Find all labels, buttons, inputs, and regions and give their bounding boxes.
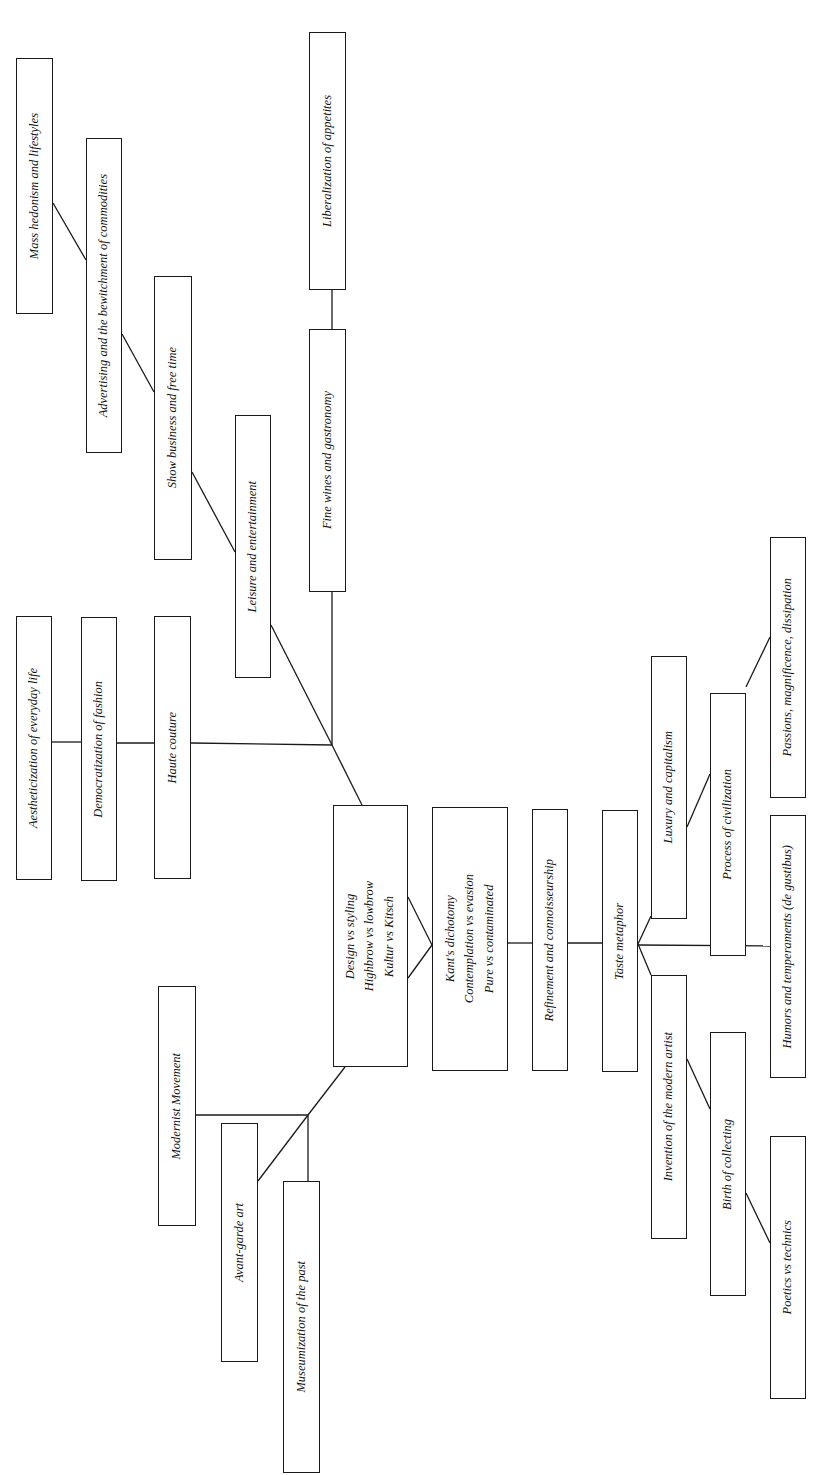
node-passions: Passions, magnificence, dissipation bbox=[770, 537, 806, 798]
node-label: Luxury and capitalism bbox=[659, 731, 678, 844]
edge-hub-lower-to-avant-garde bbox=[258, 1115, 308, 1181]
node-label: Leisure and entertainment bbox=[243, 481, 262, 612]
node-humors: Humors and temperaments (de gustibus) bbox=[770, 815, 806, 1078]
node-haute-couture: Haute couture bbox=[154, 616, 191, 879]
edge-invention-artist-to-birth-collecting bbox=[687, 1059, 710, 1109]
node-kant: Kant's dichotomy Contemplation vs evasio… bbox=[432, 807, 508, 1071]
node-label: Democratization of fashion bbox=[89, 681, 108, 818]
node-birth-collecting: Birth of collecting bbox=[710, 1032, 746, 1296]
node-poetics: Poetics vs technics bbox=[770, 1136, 806, 1399]
node-label: Poetics vs technics bbox=[778, 1220, 797, 1314]
node-label: Avant-garde art bbox=[230, 1203, 249, 1282]
concept-tree-diagram: Mass hedonism and lifestyles Advertising… bbox=[0, 0, 828, 1475]
node-label: Modernist Movement bbox=[167, 1053, 186, 1160]
node-fine-wines: Fine wines and gastronomy bbox=[309, 329, 346, 592]
node-avant-garde: Avant-garde art bbox=[221, 1123, 258, 1362]
edge-advertising-to-show-business bbox=[122, 334, 154, 392]
edge-haute-couture-to-hub-upper bbox=[191, 743, 332, 745]
edge-taste-metaphor-to-luxury bbox=[638, 916, 651, 944]
node-label: Design vs styling Highbrow vs lowbrow Ku… bbox=[341, 881, 399, 991]
node-process-civilization: Process of civilization bbox=[710, 693, 746, 956]
node-advertising: Advertising and the bewitchment of commo… bbox=[86, 138, 122, 453]
edge-birth-collecting-to-poetics bbox=[746, 1193, 770, 1243]
edge-taste-metaphor-to-invention-artist bbox=[638, 944, 651, 975]
node-taste-metaphor: Taste metaphor bbox=[602, 810, 638, 1072]
node-label: Birth of collecting bbox=[718, 1119, 737, 1210]
node-label: Kant's dichotomy Contemplation vs evasio… bbox=[441, 874, 499, 1003]
node-invention-artist: Invention of the modern artist bbox=[651, 975, 687, 1239]
node-label: Aestheticization of everyday life bbox=[24, 668, 43, 828]
edge-luxury-to-process-civilization bbox=[687, 774, 710, 827]
node-luxury: Luxury and capitalism bbox=[651, 656, 687, 919]
node-aestheticization: Aestheticization of everyday life bbox=[16, 616, 52, 880]
node-label: Liberalization of appetites bbox=[318, 95, 337, 227]
node-label: Invention of the modern artist bbox=[659, 1032, 678, 1181]
node-mass-hedonism: Mass hedonism and lifestyles bbox=[16, 58, 53, 314]
node-democratization: Democratization of fashion bbox=[81, 617, 117, 881]
node-refinement: Refinement and connoisseurship bbox=[532, 809, 568, 1071]
node-label: Haute couture bbox=[163, 712, 182, 783]
node-show-business: Show business and free time bbox=[154, 276, 192, 560]
edge-design-to-kant bbox=[408, 945, 432, 978]
node-leisure: Leisure and entertainment bbox=[235, 415, 271, 678]
node-label: Humors and temperaments (de gustibus) bbox=[778, 845, 797, 1048]
node-label: Taste metaphor bbox=[610, 903, 629, 980]
connector-lines bbox=[0, 0, 828, 1475]
edge-taste-metaphor-to-humors bbox=[638, 945, 770, 946]
node-label: Advertising and the bewitchment of commo… bbox=[94, 174, 113, 417]
edge-design-to-hub-lower bbox=[308, 1067, 345, 1115]
node-liberalization: Liberalization of appetites bbox=[309, 32, 346, 290]
edge-process-civilization-to-passions bbox=[746, 637, 770, 687]
edge-mass-hedonism-to-advertising bbox=[53, 203, 86, 260]
node-label: Museumization of the past bbox=[292, 1261, 311, 1393]
edge-show-business-to-leisure bbox=[192, 472, 235, 552]
node-label: Fine wines and gastronomy bbox=[318, 391, 337, 529]
node-label: Show business and free time bbox=[163, 347, 182, 488]
node-label: Refinement and connoisseurship bbox=[540, 859, 559, 1021]
node-label: Mass hedonism and lifestyles bbox=[25, 113, 44, 259]
edge-design-to-kant bbox=[408, 897, 432, 945]
node-design: Design vs styling Highbrow vs lowbrow Ku… bbox=[333, 805, 408, 1067]
node-label: Process of civilization bbox=[718, 769, 737, 880]
edge-hub-upper-to-design bbox=[332, 745, 362, 805]
node-label: Passions, magnificence, dissipation bbox=[778, 578, 797, 756]
node-modernist: Modernist Movement bbox=[158, 986, 196, 1226]
node-museumization: Museumization of the past bbox=[283, 1181, 320, 1473]
edge-leisure-to-hub-upper bbox=[271, 625, 332, 745]
